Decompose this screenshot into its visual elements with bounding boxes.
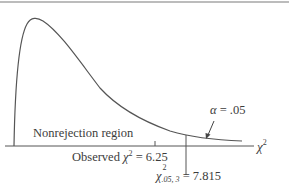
- alpha-arrow: [208, 121, 214, 135]
- nonrejection-region-label: Nonrejection region: [33, 127, 133, 140]
- chi-square-diagram: Nonrejection region α = .05 χ2 Observed …: [0, 0, 289, 190]
- observed-value: = 6.25: [133, 150, 168, 164]
- critical-subscript: .05, 3: [162, 176, 180, 184]
- critical-superscript: 2: [163, 164, 167, 172]
- critical-value-label: χ2.05, 3 = 7.815: [156, 168, 221, 183]
- alpha-value: = .05: [217, 103, 246, 117]
- x-axis-label: χ2: [257, 138, 267, 155]
- observed-prefix: Observed: [72, 150, 123, 164]
- alpha-label: α = .05: [210, 103, 246, 118]
- observed-statistic-label: Observed χ2 = 6.25: [72, 150, 168, 164]
- critical-sup-sub: 2.05, 3: [162, 168, 180, 182]
- axis-superscript: 2: [263, 138, 267, 147]
- critical-value: = 7.815: [180, 169, 221, 183]
